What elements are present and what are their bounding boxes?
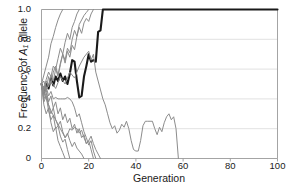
series-lines [42, 10, 278, 159]
chart-root: Frequency of A1 allele 00.20.40.60.81.0 … [0, 0, 289, 189]
gridlines [42, 10, 278, 129]
series-line-0 [42, 10, 278, 98]
series-line-5 [42, 51, 179, 158]
plot-area [0, 0, 289, 189]
